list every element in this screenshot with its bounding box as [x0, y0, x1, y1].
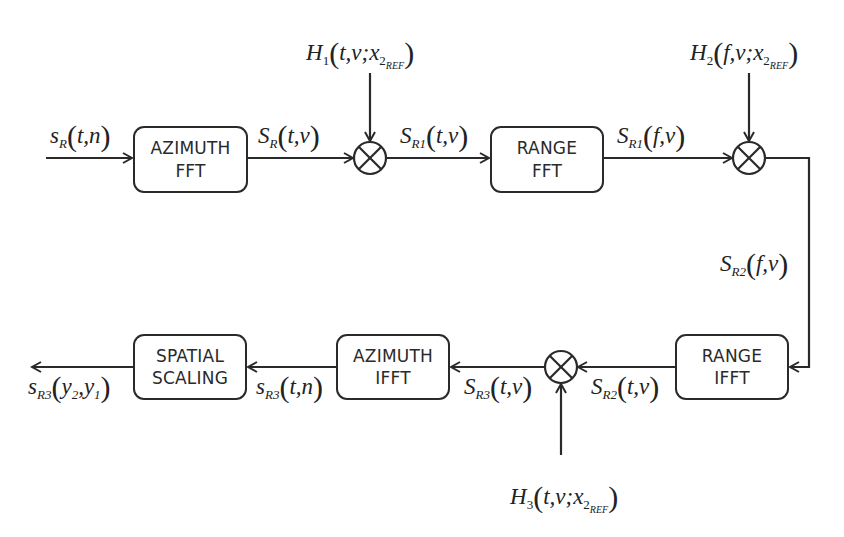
- spatial-scaling-block: SPATIAL SCALING: [133, 334, 247, 400]
- azimuth-fft-block: AZIMUTH FFT: [133, 126, 248, 193]
- signal-label-after-mult1: SR1(t,ν): [400, 121, 468, 151]
- signal-label-output: sR3(y2,y1): [28, 372, 111, 402]
- block-label-line1: RANGE: [702, 345, 762, 367]
- filter-label-h1: H1(t,ν;x2REF): [306, 38, 414, 71]
- signal-label-after-range-ifft: SR2(t,ν): [591, 372, 659, 402]
- block-label-line2: IFFT: [714, 367, 749, 389]
- block-label-line2: FFT: [532, 160, 562, 182]
- filter-label-h3: H3(t,ν;x2REF): [510, 482, 618, 515]
- block-diagram: AZIMUTH FFT RANGE FFT RANGE IFFT AZIMUTH…: [0, 0, 844, 537]
- block-label-line2: FFT: [175, 160, 205, 182]
- range-ifft-block: RANGE IFFT: [675, 334, 789, 400]
- range-fft-block: RANGE FFT: [490, 126, 604, 193]
- block-label-line1: AZIMUTH: [151, 137, 231, 159]
- connection-lines: [0, 0, 844, 537]
- block-label-line2: IFFT: [375, 367, 410, 389]
- signal-label-after-azimuth-fft: SR(t,ν): [258, 121, 320, 151]
- signal-label-after-azimuth-ifft: sR3(t,n): [256, 372, 323, 402]
- signal-label-input: sR(t,n): [50, 121, 111, 151]
- azimuth-ifft-block: AZIMUTH IFFT: [336, 334, 450, 400]
- signal-label-after-mult2: SR2(f,ν): [720, 249, 788, 279]
- filter-label-h2: H2(f,ν;x2REF): [690, 38, 798, 71]
- signal-label-after-mult3: SR3(t,ν): [464, 372, 532, 402]
- block-label-line2: SCALING: [152, 367, 228, 389]
- signal-label-after-range-fft: SR1(f,ν): [617, 121, 685, 151]
- block-label-line1: AZIMUTH: [353, 345, 433, 367]
- block-label-line1: SPATIAL: [156, 345, 224, 367]
- block-label-line1: RANGE: [517, 137, 577, 159]
